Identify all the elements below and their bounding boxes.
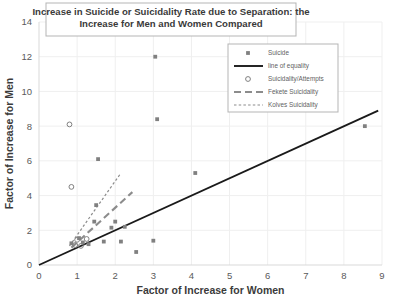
data-point bbox=[113, 220, 117, 224]
chart-title: Increase in Suicide or Suicidality Rate … bbox=[32, 3, 309, 36]
data-point bbox=[92, 220, 96, 224]
data-point bbox=[153, 55, 157, 59]
reference-line-solid bbox=[39, 111, 378, 265]
y-tick-label: 4 bbox=[27, 190, 32, 201]
data-point bbox=[193, 171, 197, 175]
data-point bbox=[84, 237, 89, 242]
reference-lines bbox=[39, 111, 378, 265]
data-point bbox=[151, 239, 155, 243]
x-tick-label: 5 bbox=[227, 270, 232, 281]
x-axis-title: Factor of Increase for Women bbox=[136, 284, 284, 296]
y-axis-title: Factor of Increase for Men bbox=[3, 78, 15, 209]
x-tick-label: 4 bbox=[189, 270, 194, 281]
y-tick-label: 10 bbox=[21, 86, 32, 97]
x-tick-label: 9 bbox=[379, 270, 384, 281]
x-tick-label: 2 bbox=[113, 270, 118, 281]
y-tick-label: 14 bbox=[21, 16, 32, 27]
x-tick-label: 7 bbox=[303, 270, 308, 281]
data-point bbox=[69, 184, 74, 189]
data-point bbox=[110, 226, 114, 230]
x-tick-label: 3 bbox=[151, 270, 156, 281]
data-point bbox=[134, 250, 138, 254]
legend-label: Suicidality/Attempts bbox=[268, 75, 324, 83]
y-tick-label: 0 bbox=[27, 259, 32, 270]
data-point bbox=[96, 157, 100, 161]
x-tick-label: 6 bbox=[265, 270, 270, 281]
y-tick-label: 8 bbox=[27, 121, 32, 132]
legend-label: line of equality bbox=[268, 62, 310, 70]
legend-label: Suicide bbox=[268, 49, 289, 56]
data-point bbox=[87, 242, 91, 246]
y-tick-labels: 02468101214 bbox=[21, 16, 32, 270]
legend-label: Fekete Suicidality bbox=[268, 88, 319, 96]
data-point bbox=[155, 117, 159, 121]
chart-title-line: Increase in Suicide or Suicidality Rate … bbox=[32, 6, 309, 17]
chart-legend: Suicideline of equalitySuicidality/Attem… bbox=[228, 44, 338, 112]
data-point bbox=[102, 240, 106, 244]
legend-label: Kolves Suicidality bbox=[268, 101, 319, 109]
data-point bbox=[119, 240, 123, 244]
legend-marker bbox=[246, 51, 250, 55]
x-tick-label: 1 bbox=[74, 270, 79, 281]
scatter-plot: 0123456789 02468101214 Factor of Increas… bbox=[0, 0, 394, 296]
y-tick-label: 6 bbox=[27, 155, 32, 166]
chart-title-line: Increase for Men and Women Compared bbox=[79, 18, 262, 29]
y-tick-label: 2 bbox=[27, 225, 32, 236]
data-point bbox=[123, 225, 127, 229]
chart-container: 0123456789 02468101214 Factor of Increas… bbox=[0, 0, 394, 296]
x-tick-label: 8 bbox=[341, 270, 346, 281]
data-point bbox=[363, 124, 367, 128]
data-point bbox=[94, 203, 98, 207]
x-tick-label: 0 bbox=[36, 270, 41, 281]
y-tick-label: 12 bbox=[21, 51, 32, 62]
x-tick-labels: 0123456789 bbox=[36, 270, 384, 281]
